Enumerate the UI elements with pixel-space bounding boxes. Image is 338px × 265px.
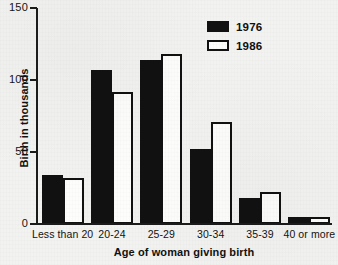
y-axis-tick-mark — [30, 7, 37, 9]
y-axis-tick-label: 0 — [0, 217, 28, 229]
bar-1976-less-than-20 — [42, 175, 63, 224]
bar-1976-25-29 — [140, 60, 161, 224]
x-axis-tick-label: 25-29 — [148, 228, 175, 240]
bar-group — [42, 8, 84, 224]
y-axis-tick-labels: 050100150 — [0, 0, 28, 265]
x-axis-tick-label: 30-34 — [197, 228, 224, 240]
y-axis-tick-label: 50 — [0, 145, 28, 157]
bar-1986-less-than-20 — [63, 178, 84, 224]
bar-1986-20-24 — [112, 92, 133, 224]
bar-1976-20-24 — [91, 70, 112, 224]
bar-1976-30-34 — [190, 149, 211, 224]
bar-chart-figure: Birth in thousands 050100150 Less than 2… — [0, 0, 338, 265]
y-axis-tick-mark — [30, 223, 37, 225]
legend: 19761986 — [207, 19, 262, 57]
x-axis-tick-label: 20-24 — [98, 228, 125, 240]
legend-swatch-icon — [207, 40, 229, 51]
legend-label: 1976 — [236, 21, 262, 33]
bar-group — [91, 8, 133, 224]
bar-group — [140, 8, 182, 224]
bar-1986-25-29 — [161, 54, 182, 224]
x-axis-line — [36, 223, 332, 225]
legend-item-1986: 1986 — [207, 38, 262, 53]
y-axis-line — [36, 8, 38, 225]
bar-1976-35-39 — [239, 198, 260, 224]
y-axis-tick-label: 100 — [0, 73, 28, 85]
x-axis-tick-label: Less than 20 — [32, 228, 93, 240]
y-axis-tick-mark — [30, 79, 37, 81]
y-axis-tick-mark — [30, 151, 37, 153]
x-axis-tick-label: 40 or more — [283, 228, 335, 240]
plot-area — [36, 8, 332, 224]
bar-1986-35-39 — [260, 192, 281, 224]
bar-1986-30-34 — [211, 122, 232, 224]
bar-group — [288, 8, 330, 224]
legend-item-1976: 1976 — [207, 19, 262, 34]
y-axis-tick-label: 150 — [0, 1, 28, 13]
legend-label: 1986 — [236, 40, 262, 52]
x-axis-tick-label: 35-39 — [246, 228, 273, 240]
x-axis-label: Age of woman giving birth — [36, 246, 332, 258]
x-axis-tick-labels: Less than 2020-2425-2930-3435-3940 or mo… — [36, 228, 332, 244]
legend-swatch-icon — [207, 21, 229, 32]
